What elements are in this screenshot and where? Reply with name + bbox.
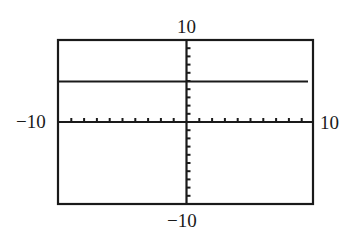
x-max-label: 10 — [320, 113, 339, 132]
y-min-label: −10 — [167, 211, 197, 230]
y-max-label: 10 — [177, 17, 196, 36]
x-min-label: −10 — [16, 112, 46, 131]
graph-plot — [0, 0, 343, 235]
